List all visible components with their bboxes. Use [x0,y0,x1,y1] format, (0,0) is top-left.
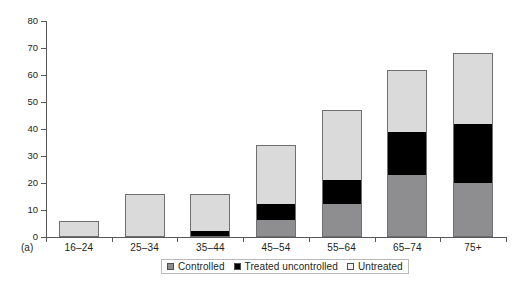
stacked-bar-chart: 01020304050607080 16–2425–3435–4445–5455… [0,0,522,292]
bar-group-65-74 [387,21,427,237]
bar-segment-untreated [60,222,98,236]
legend-label-untreated: Untreated [358,261,403,272]
y-tick-label-50: 50 [12,97,38,107]
legend-item-controlled: Controlled [167,261,225,272]
x-axis-category-labels: 16–2425–3435–4445–5455–6465–7475+ [46,242,506,258]
bar-group-16-24 [59,21,99,237]
bar-segment-controlled [323,204,361,236]
bar-segment-untreated [388,71,426,132]
bar-segment-controlled [454,183,492,236]
bar-segment-untreated [126,195,164,236]
y-tick-label-10: 10 [12,205,38,215]
bar-group-45-54 [256,21,296,237]
y-tick-label-20: 20 [12,178,38,188]
legend-label-treated-uncontrolled: Treated uncontrolled [245,261,338,272]
bar-segment-untreated [323,111,361,180]
y-tick-label-60: 60 [12,70,38,80]
bar-segment-treated-uncontrolled [323,180,361,204]
chart-legend: Controlled Treated uncontrolled Untreate… [161,259,409,274]
x-label-0: 16–24 [44,242,114,254]
x-label-2: 35–44 [175,242,245,254]
stacked-bar [59,221,99,237]
bar-segment-treated-uncontrolled [388,132,426,175]
bar-group-25-34 [125,21,165,237]
x-label-3: 45–54 [241,242,311,254]
x-axis-line [46,237,506,238]
x-label-4: 55–64 [307,242,377,254]
stacked-bar [387,70,427,237]
legend-swatch-untreated-icon [347,263,354,270]
x-label-6: 75+ [438,242,508,254]
y-tick-label-40: 40 [12,124,38,134]
bar-segment-treated-uncontrolled [191,231,229,236]
bar-segment-untreated [454,54,492,123]
legend-swatch-treated-uncontrolled-icon [234,263,241,270]
stacked-bar [125,194,165,237]
panel-label: (a) [21,242,33,254]
x-label-1: 25–34 [110,242,180,254]
bar-group-75+ [453,21,493,237]
stacked-bar [256,145,296,237]
stacked-bar [453,53,493,237]
y-tick-label-30: 30 [12,151,38,161]
stacked-bar [322,110,362,237]
legend-label-controlled: Controlled [178,261,225,272]
bar-group-35-44 [190,21,230,237]
x-label-5: 65–74 [372,242,442,254]
bars-layer [46,21,506,237]
legend-swatch-controlled-icon [167,263,174,270]
bar-segment-treated-uncontrolled [454,124,492,183]
y-tick-label-0: 0 [12,232,38,242]
bar-segment-controlled [388,175,426,236]
y-tick-label-80: 80 [12,16,38,26]
bar-segment-treated-uncontrolled [257,204,295,220]
bar-segment-untreated [191,195,229,231]
stacked-bar [190,194,230,237]
y-tick-label-70: 70 [12,43,38,53]
bar-segment-controlled [257,220,295,236]
bar-segment-untreated [257,146,295,204]
legend-item-untreated: Untreated [347,261,403,272]
legend-item-treated-uncontrolled: Treated uncontrolled [234,261,338,272]
bar-group-55-64 [322,21,362,237]
